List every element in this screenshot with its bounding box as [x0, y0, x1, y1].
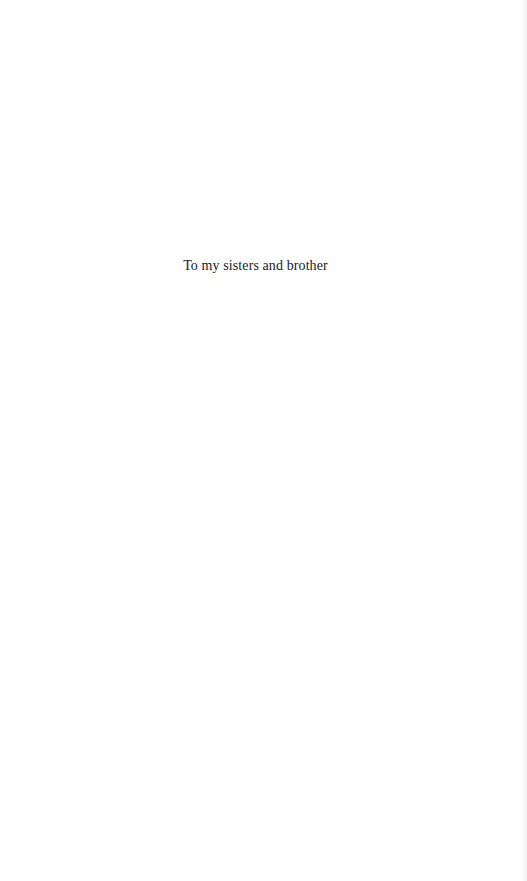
page-edge-shadow — [521, 0, 527, 881]
book-page: To my sisters and brother — [0, 0, 527, 881]
dedication: To my sisters and brother — [0, 258, 527, 274]
dedication-text: To my sisters and brother — [183, 258, 328, 274]
